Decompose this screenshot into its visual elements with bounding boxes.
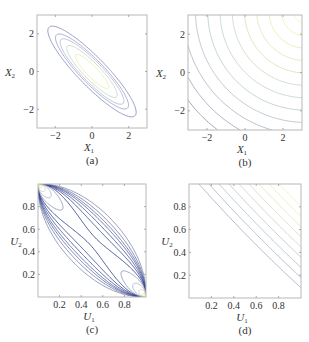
panel-caption: (c) [86,323,99,336]
panel-caption: (d) [239,324,252,337]
x-tick-label: −2 [202,132,213,143]
panel-caption: (a) [86,154,99,167]
contour-level-3 [38,184,146,297]
contour-level-10 [38,184,146,297]
y-axis-label: X2 [4,66,16,80]
x-tick-label: 0.6 [97,299,110,310]
y-tick-label: 2 [29,28,34,39]
panel-d: 0.20.40.60.80.20.40.60.8U1U2(d) [161,184,301,337]
x-tick-label: 0 [243,132,248,143]
plot-frame [37,15,147,128]
contour-level-7 [38,184,146,297]
contour-level-12 [294,15,302,23]
y-tick-label: 0.4 [23,246,36,257]
contour-level-3 [188,45,272,130]
y-tick-label: 0.4 [174,247,187,258]
y-axis-label: U2 [10,235,22,249]
x-tick-label: 0.6 [250,300,263,311]
y-tick-label: 0.2 [23,269,36,280]
y-axis-label: U2 [161,235,173,249]
x-tick-label: 0.2 [53,299,66,310]
contour-level-12 [38,184,146,297]
contour-level-6 [38,184,146,297]
contour-level-11 [38,184,146,297]
panel-a: −202−202X1X2(a) [4,15,147,167]
contour-level-8 [269,184,301,217]
y-tick-label: −2 [23,104,34,115]
contour-lines-a [48,26,136,117]
x-axis-label: U1 [236,311,248,325]
contour-level-9 [257,15,302,60]
y-tick-label: 0.2 [174,270,187,281]
y-tick-label: 2 [180,29,185,40]
x-tick-label: 0.4 [75,299,88,310]
y-tick-label: 0.8 [23,201,36,212]
x-axis-label: U1 [83,310,95,324]
contour-level-2 [55,34,128,109]
panel-caption: (b) [239,156,252,169]
contour-level-3 [219,184,301,267]
contour-level-6 [220,15,302,98]
contour-lines-b [188,15,302,130]
contour-level-3 [60,39,124,105]
contour-level-7 [259,184,301,227]
contour-level-7 [232,15,302,85]
panel-c: 0.20.40.60.80.20.40.60.8U1U2(c) [10,184,146,336]
contour-level-4 [67,46,118,98]
contour-level-2 [209,184,301,278]
x-tick-label: 0.8 [118,299,131,310]
x-tick-label: −2 [50,130,61,141]
contour-level-9 [38,184,146,297]
y-tick-label: 0 [180,67,185,78]
contour-level-5 [38,184,146,297]
contour-level-11 [282,15,302,36]
x-axis-label: X1 [236,143,248,157]
contour-lines-c [38,184,146,297]
contour-level-6 [249,184,301,237]
contour-level-5 [75,54,108,88]
contour-level-9 [279,184,301,206]
y-tick-label: 0 [29,66,34,77]
contour-level-1 [199,184,301,288]
x-tick-label: 0.4 [228,300,241,311]
contour-level-1 [188,100,218,130]
contour-lines-d [199,184,301,288]
contour-level-8 [245,15,302,73]
y-tick-label: 0.8 [174,201,187,212]
x-tick-label: 2 [281,132,286,143]
x-tick-label: 0 [90,130,95,141]
panel-b: −202−202X1X2(b) [155,15,302,169]
x-axis-label: X1 [83,141,95,155]
y-tick-label: −2 [174,105,185,116]
contour-level-2 [38,184,146,297]
x-tick-label: 2 [126,130,131,141]
contour-level-4 [38,184,146,297]
x-tick-label: 0.8 [272,300,285,311]
plot-frame [38,184,146,297]
y-tick-label: 0.6 [23,224,36,235]
y-axis-label: X2 [155,67,167,81]
x-tick-label: 0.2 [205,300,218,311]
contour-level-2 [188,77,240,130]
figure: −202−202X1X2(a)−202−202X1X2(b)0.20.40.60… [0,0,309,342]
y-tick-label: 0.6 [174,224,187,235]
contour-level-8 [38,184,146,297]
contour-level-4 [196,15,302,122]
contour-level-1 [38,184,146,297]
